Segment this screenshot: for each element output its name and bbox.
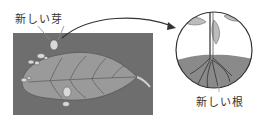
arrow-head-icon <box>167 22 176 30</box>
inset-closeup <box>170 10 260 100</box>
new-bud-label: 新しい芽 <box>15 10 63 26</box>
new-root-label: 新しい根 <box>196 93 244 109</box>
